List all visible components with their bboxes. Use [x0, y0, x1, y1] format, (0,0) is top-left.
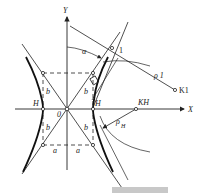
curvature-arc-h	[100, 116, 150, 152]
asymptote-2	[22, 44, 122, 188]
semi-axis-a-left: a	[53, 146, 57, 155]
point-1-label: 1	[119, 46, 123, 55]
vertex-left-label: H	[32, 99, 40, 108]
vertex-right-label: H	[94, 99, 102, 108]
rho-1-label: ρ 1	[153, 71, 164, 80]
semi-axis-b-upper-left: b	[46, 87, 50, 96]
k1-label: K1	[179, 86, 189, 95]
gray-bar	[112, 187, 168, 193]
x-axis-label: X	[187, 105, 194, 114]
semi-axis-b-upper-right: b	[84, 87, 88, 96]
origin-label: 0	[57, 110, 61, 119]
semi-axis-b-lower-left: b	[46, 123, 50, 132]
semi-axis-a-right: a	[76, 146, 80, 155]
kh-label: KH	[137, 98, 150, 107]
tangent-line	[92, 22, 128, 110]
y-axis-label: Y	[63, 6, 69, 15]
hyperbola-left-branch	[23, 57, 43, 172]
semi-axis-b-lower-right: b	[84, 123, 88, 132]
hyperbola-right-branch	[93, 57, 113, 172]
hyperbola-diagram: Y X 0 H H a a b b b b α 1 K1 KH ρ 1 ρ H	[0, 0, 201, 193]
rho-h-subscript: H	[120, 123, 126, 129]
rho-h-label: ρ	[115, 117, 120, 126]
